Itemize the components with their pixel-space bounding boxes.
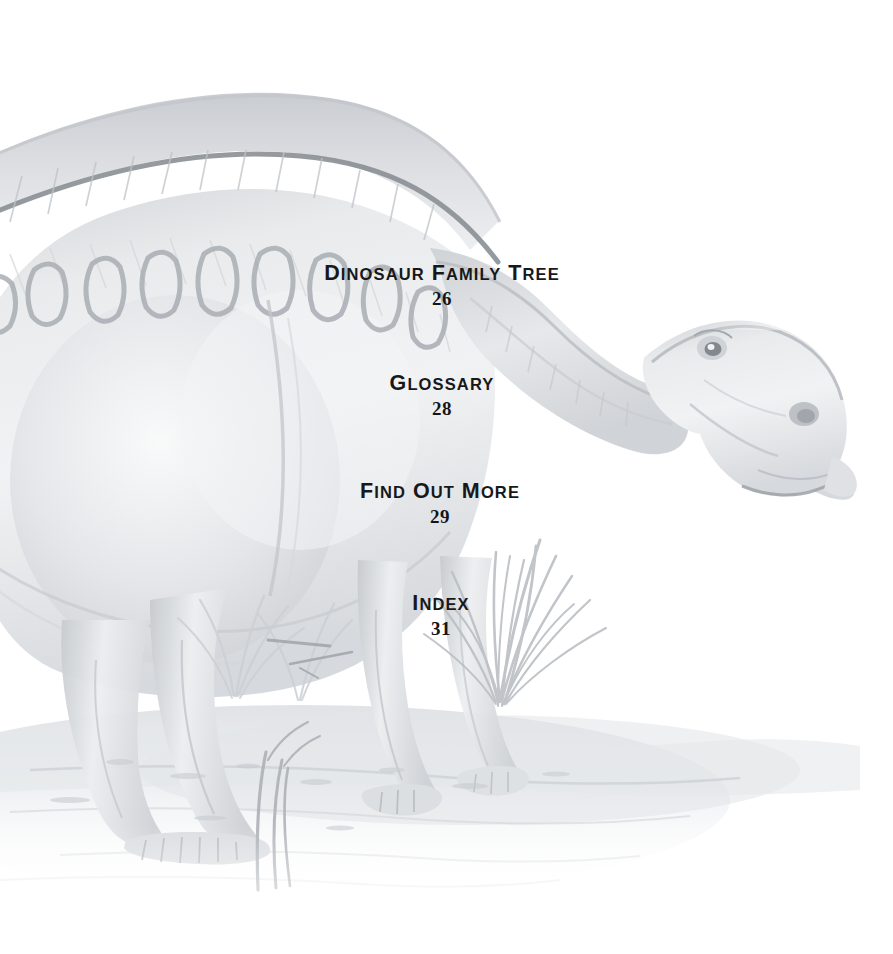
toc-page-number: 29: [290, 506, 590, 528]
toc-entry-glossary[interactable]: Glossary 28: [312, 372, 572, 420]
toc-entry-find-out-more[interactable]: Find Out More 29: [290, 480, 590, 528]
toc-title: Index: [351, 592, 531, 615]
toc-page-number: 28: [312, 398, 572, 420]
toc-entry-index[interactable]: Index 31: [351, 592, 531, 640]
table-of-contents: Dinosaur Family Tree 26 Glossary 28 Find…: [0, 0, 893, 954]
toc-title: Dinosaur Family Tree: [262, 262, 622, 285]
toc-entry-dinosaur-family-tree[interactable]: Dinosaur Family Tree 26: [262, 262, 622, 310]
book-contents-page: Dinosaur Family Tree 26 Glossary 28 Find…: [0, 0, 893, 954]
toc-title: Find Out More: [290, 480, 590, 503]
toc-page-number: 31: [351, 618, 531, 640]
toc-title: Glossary: [312, 372, 572, 395]
toc-page-number: 26: [262, 288, 622, 310]
